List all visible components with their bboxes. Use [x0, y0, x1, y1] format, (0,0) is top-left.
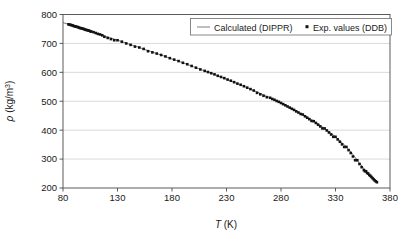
data-point: [213, 73, 216, 76]
y-axis-unit-close: ): [4, 81, 15, 84]
data-point: [256, 92, 259, 95]
data-point: [129, 44, 132, 47]
data-point: [125, 42, 128, 45]
density-temperature-chart: 80130180230280330380 2003004005006007008…: [0, 0, 409, 242]
data-point: [339, 140, 342, 143]
data-point: [155, 52, 158, 55]
legend-square-marker: [306, 25, 309, 28]
data-point: [203, 70, 206, 73]
data-point: [134, 45, 137, 48]
data-point: [259, 93, 262, 96]
data-point: [169, 57, 172, 60]
data-point: [266, 96, 269, 99]
data-point: [116, 39, 119, 42]
data-point: [239, 83, 242, 86]
calculated-curve: [63, 23, 378, 183]
data-point: [230, 79, 233, 82]
data-point: [147, 50, 150, 53]
x-tick-label-80: 80: [58, 192, 69, 203]
data-point: [347, 149, 350, 152]
svg-text:ρ (kg/m3): ρ (kg/m3): [4, 81, 16, 123]
data-point: [341, 143, 344, 146]
data-point: [177, 60, 180, 63]
y-tick-label-800: 800: [41, 9, 57, 20]
x-tick-label-180: 180: [164, 192, 180, 203]
data-point: [352, 155, 355, 158]
x-axis-unit: (K): [224, 219, 237, 230]
experimental-points-group: [67, 23, 378, 183]
data-point: [160, 54, 163, 57]
data-point: [182, 61, 185, 64]
data-point: [330, 133, 333, 136]
legend-label-calculated: Calculated (DIPPR): [214, 23, 293, 33]
data-point: [220, 76, 223, 79]
data-point: [138, 46, 141, 49]
data-point: [334, 136, 337, 139]
y-axis-tick-labels: 200300400500600700800: [41, 9, 57, 194]
data-point: [113, 39, 116, 42]
x-axis-tick-labels: 80130180230280330380: [58, 192, 398, 203]
data-point: [207, 71, 210, 74]
y-tick-label-700: 700: [41, 38, 57, 49]
data-point: [233, 81, 236, 84]
data-point: [186, 63, 189, 66]
x-axis-title: T (K): [215, 219, 237, 230]
axis-ticks: [60, 15, 391, 192]
data-point: [195, 66, 198, 69]
data-point: [103, 35, 106, 38]
y-axis-title: ρ (kg/m3): [4, 81, 16, 123]
data-point: [349, 152, 352, 155]
data-point: [262, 94, 265, 97]
data-point: [121, 40, 124, 43]
data-point: [110, 38, 113, 41]
svg-text:T (K): T (K): [215, 219, 237, 230]
y-tick-label-500: 500: [41, 96, 57, 107]
data-point: [199, 68, 202, 71]
x-tick-label-130: 130: [110, 192, 126, 203]
data-point: [216, 75, 219, 78]
data-point: [336, 138, 339, 141]
data-point: [345, 146, 348, 149]
x-tick-label-280: 280: [273, 192, 289, 203]
x-tick-label-330: 330: [328, 192, 344, 203]
data-point: [252, 89, 255, 92]
y-tick-label-200: 200: [41, 182, 57, 193]
data-point: [190, 65, 193, 68]
x-tick-label-380: 380: [382, 192, 398, 203]
data-point: [243, 85, 246, 88]
data-point: [358, 163, 361, 166]
calculated-curve-group: [63, 23, 378, 183]
data-point: [236, 82, 239, 85]
data-point: [223, 77, 226, 80]
legend-label-experimental: Exp. values (DDB): [313, 23, 387, 33]
chart-legend[interactable]: Calculated (DIPPR) Exp. values (DDB): [191, 19, 392, 36]
data-point: [246, 86, 249, 89]
data-point: [151, 51, 154, 54]
data-point: [376, 181, 379, 184]
data-point: [106, 37, 109, 40]
y-tick-label-400: 400: [41, 125, 57, 136]
data-point: [164, 55, 167, 58]
data-point: [210, 72, 213, 75]
y-tick-label-300: 300: [41, 153, 57, 164]
data-point: [356, 159, 359, 162]
y-tick-label-600: 600: [41, 67, 57, 78]
data-point: [173, 58, 176, 61]
data-point: [142, 48, 145, 51]
y-axis-unit: (kg/m: [4, 88, 15, 113]
data-point: [249, 88, 252, 91]
data-point: [226, 78, 229, 81]
chart-canvas: 80130180230280330380 2003004005006007008…: [0, 0, 409, 242]
data-point: [360, 166, 363, 169]
x-tick-label-230: 230: [219, 192, 235, 203]
